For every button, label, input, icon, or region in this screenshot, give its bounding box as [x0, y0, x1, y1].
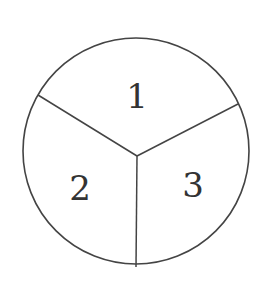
section-label-2: 2	[69, 168, 91, 208]
divider-bottom	[136, 156, 137, 267]
divider-left	[38, 95, 137, 156]
divider-right	[137, 104, 238, 156]
section-label-1: 1	[126, 76, 148, 116]
section-label-3: 3	[182, 165, 204, 205]
spinner-diagram: 1 2 3	[0, 0, 254, 291]
